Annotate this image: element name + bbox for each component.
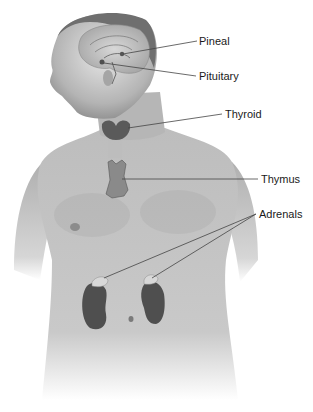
label-thyroid: Thyroid [225,108,262,120]
label-pituitary: Pituitary [199,70,239,82]
label-pineal: Pineal [199,35,230,47]
label-adrenals: Adrenals [259,208,302,220]
endocrine-illustration [0,0,313,412]
kidney-left [82,283,106,330]
nipple-left [70,223,80,231]
pituitary-gland [100,60,105,65]
trachea [108,140,122,158]
navel [129,316,134,322]
label-thymus: Thymus [261,173,300,185]
ear [103,70,113,86]
